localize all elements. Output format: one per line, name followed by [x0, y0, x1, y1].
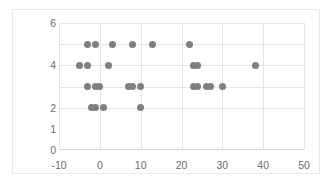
x-tick-label: 0 — [97, 160, 103, 171]
data-point — [96, 83, 103, 90]
data-point — [137, 83, 144, 90]
data-point — [129, 83, 136, 90]
data-point — [186, 41, 193, 48]
chart-figure: 01246 -1001020304050 — [12, 9, 320, 174]
data-point — [207, 83, 214, 90]
y-tick-label: 4 — [50, 60, 56, 71]
y-tick-label: 1 — [50, 124, 56, 135]
data-point — [194, 83, 201, 90]
data-point — [219, 83, 226, 90]
plot-area: 01246 -1001020304050 — [59, 23, 304, 150]
data-point — [149, 41, 156, 48]
data-point — [105, 62, 112, 69]
gridline-vertical — [304, 23, 305, 150]
x-tick-label: 40 — [257, 160, 269, 171]
gridline-horizontal — [59, 65, 304, 66]
x-tick-label: -10 — [51, 160, 66, 171]
data-point — [92, 41, 99, 48]
data-point — [84, 83, 91, 90]
data-point — [129, 41, 136, 48]
y-tick-label: 6 — [50, 18, 56, 29]
x-tick-label: 30 — [216, 160, 228, 171]
data-point — [194, 62, 201, 69]
data-point — [84, 62, 91, 69]
x-tick-label: 20 — [176, 160, 188, 171]
x-tick-label: 50 — [298, 160, 310, 171]
data-point — [92, 104, 99, 111]
x-tick-label: 10 — [135, 160, 147, 171]
data-point — [100, 104, 107, 111]
data-point — [109, 41, 116, 48]
gridline-horizontal — [59, 23, 304, 24]
data-point — [84, 41, 91, 48]
y-tick-label: 2 — [50, 102, 56, 113]
y-tick-label: 0 — [50, 145, 56, 156]
data-point — [137, 104, 144, 111]
data-point — [76, 62, 83, 69]
data-point — [252, 62, 259, 69]
